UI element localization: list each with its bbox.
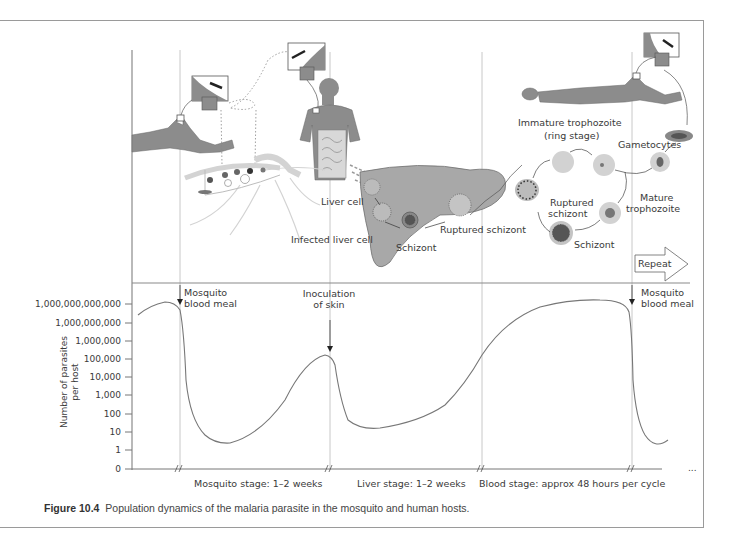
stage-label-mosquito: Mosquito stage: 1–2 weeks xyxy=(194,478,323,489)
population-chart: ... 1,000,000,000,000 1,000,000,000 1,00… xyxy=(35,285,696,489)
label-ring-stage: (ring stage) xyxy=(544,130,599,141)
bite-inset-left xyxy=(181,76,228,115)
bite-inset-right xyxy=(636,33,687,125)
mosquito xyxy=(185,157,325,240)
y-tick-label: 10 xyxy=(110,427,122,437)
annotation-mosquito-blood-meal-2-line2: blood meal xyxy=(641,298,694,309)
y-tick-label: 1,000,000,000,000 xyxy=(35,299,121,309)
y-axis-title: Number of parasites per host xyxy=(59,336,80,428)
y-tick-label: 1,000,000,000 xyxy=(55,318,121,328)
label-mature: Mature xyxy=(640,192,673,203)
svg-text:Number of parasites: Number of parasites xyxy=(59,336,69,428)
illustration-panel: Liver cell Infected liver cell Schizont … xyxy=(132,33,693,470)
label-schizont-word: schizont xyxy=(548,208,588,219)
svg-text:per host: per host xyxy=(70,363,80,401)
stage-label-blood: Blood stage: approx 48 hours per cycle xyxy=(479,478,666,489)
y-tick-label: 10,000 xyxy=(90,372,122,382)
y-tick-label: 100,000 xyxy=(84,354,121,364)
annotation-mosquito-blood-meal-1-line2: blood meal xyxy=(184,298,237,309)
annotation-mosquito-blood-meal-1-line1: Mosquito xyxy=(184,287,227,298)
y-tick-label: 1 xyxy=(115,445,121,455)
label-ruptured-schizont-liver: Ruptured schizont xyxy=(440,224,526,235)
label-gametocytes: Gametocytes xyxy=(618,139,681,150)
y-tick-label: 100 xyxy=(104,409,121,419)
annotation-mosquito-blood-meal-2-line1: Mosquito xyxy=(641,287,684,298)
bite-site-marker xyxy=(177,115,184,121)
label-repeat: Repeat xyxy=(638,258,672,269)
stage-label-liver: Liver stage: 1–2 weeks xyxy=(357,478,466,489)
bite-inset-center xyxy=(288,43,325,108)
population-curve xyxy=(138,300,668,444)
transmission-path xyxy=(229,52,290,110)
reclining-human-right xyxy=(522,75,682,104)
x-axis-continuation: ... xyxy=(688,463,697,473)
y-tick-label: 1,000,000 xyxy=(75,336,121,346)
label-infected-liver-cell: Infected liver cell xyxy=(291,234,373,245)
caption-number: Figure 10.4 xyxy=(44,502,99,514)
label-trophozoite: trophozoite xyxy=(626,203,680,214)
label-immature-trophozoite: Immature trophozoite xyxy=(518,117,622,128)
malaria-figure: Liver cell Infected liver cell Schizont … xyxy=(0,0,741,533)
label-liver-cell: Liver cell xyxy=(321,196,364,207)
label-schizont-blood: Schizont xyxy=(574,239,615,250)
bite-site-marker-right xyxy=(633,73,640,79)
repeat-arrow: Repeat xyxy=(635,247,688,281)
figure-caption: Figure 10.4 Population dynamics of the m… xyxy=(44,502,470,514)
annotation-inoculation-line2: of skin xyxy=(313,299,344,310)
y-tick-label: 0 xyxy=(115,464,121,474)
annotation-arrows xyxy=(177,285,635,352)
label-ruptured: Ruptured xyxy=(550,197,594,208)
label-schizont-liver: Schizont xyxy=(396,242,437,253)
reclining-human-left xyxy=(132,118,234,153)
caption-text: Population dynamics of the malaria paras… xyxy=(105,502,469,514)
annotation-inoculation-line1: Inoculation xyxy=(303,288,356,299)
y-axis-ticks xyxy=(125,304,132,469)
y-tick-label: 1,000 xyxy=(95,390,121,400)
